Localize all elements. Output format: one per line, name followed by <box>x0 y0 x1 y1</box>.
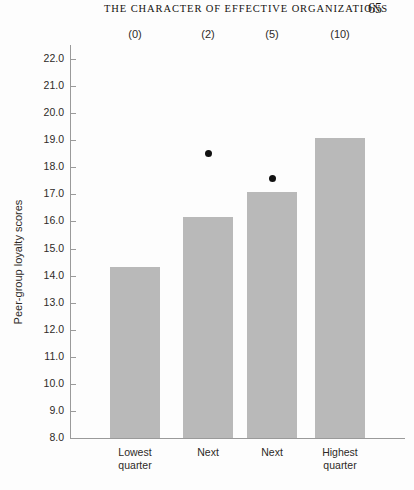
y-axis-tick <box>71 113 76 114</box>
x-axis-category-label: Highestquarter <box>294 446 386 472</box>
y-axis-tick <box>71 140 76 141</box>
y-axis-tick-label: 15.0 <box>24 242 64 254</box>
y-axis-tick-label: 11.0 <box>24 350 64 362</box>
y-axis-tick <box>71 59 76 60</box>
bar <box>110 267 160 438</box>
bar <box>315 138 365 438</box>
y-axis-tick-label: 18.0 <box>24 160 64 172</box>
y-axis-tick-label: 19.0 <box>24 133 64 145</box>
y-axis-tick <box>71 276 76 277</box>
x-axis-category-label-line: quarter <box>294 459 386 472</box>
y-axis-title: Peer-group loyalty scores <box>12 182 24 342</box>
y-axis-tick-label: 13.0 <box>24 296 64 308</box>
y-axis-tick-label: 16.0 <box>24 214 64 226</box>
y-axis-tick <box>71 167 76 168</box>
y-axis-tick-label: 8.0 <box>24 431 64 443</box>
x-axis-category-label-line: Highest <box>294 446 386 459</box>
data-point-marker <box>269 175 276 182</box>
y-axis-tick <box>71 221 76 222</box>
y-axis-tick-label: 22.0 <box>24 52 64 64</box>
y-axis-tick <box>71 249 76 250</box>
x-axis-line <box>70 438 405 439</box>
top-annotation-label: (10) <box>294 28 386 40</box>
y-axis-line <box>70 45 71 439</box>
bar-chart: Peer-group loyalty scores 22.021.020.019… <box>0 0 414 490</box>
y-axis-tick-label: 17.0 <box>24 187 64 199</box>
y-axis-tick <box>71 384 76 385</box>
y-axis-tick <box>71 357 76 358</box>
y-axis-tick-label: 14.0 <box>24 269 64 281</box>
y-axis-tick <box>71 303 76 304</box>
x-axis-category-label-line: quarter <box>89 459 181 472</box>
y-axis-tick <box>71 330 76 331</box>
y-axis-tick-label: 12.0 <box>24 323 64 335</box>
bar <box>247 192 297 438</box>
book-page: THE CHARACTER OF EFFECTIVE ORGANIZATIONS… <box>0 0 414 490</box>
y-axis-tick-label: 21.0 <box>24 79 64 91</box>
y-axis-tick-label: 10.0 <box>24 377 64 389</box>
y-axis-tick <box>71 194 76 195</box>
y-axis-tick-label: 9.0 <box>24 404 64 416</box>
data-point-marker <box>205 150 212 157</box>
bar <box>183 217 233 438</box>
y-axis-tick-label: 20.0 <box>24 106 64 118</box>
y-axis-tick <box>71 411 76 412</box>
y-axis-tick <box>71 86 76 87</box>
